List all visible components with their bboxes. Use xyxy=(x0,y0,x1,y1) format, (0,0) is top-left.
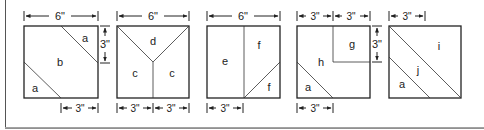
piece-label: f xyxy=(257,39,261,51)
piece-label: a xyxy=(305,81,312,93)
block-4: 3" 3" 3" g h a 3" xyxy=(297,11,382,114)
piece-label: g xyxy=(349,38,355,50)
quilt-diagram: 6" 3" a b a 3" 6" xyxy=(0,0,484,130)
piece-label: j xyxy=(416,64,419,76)
piece-label: e xyxy=(222,55,228,67)
piece-label: c xyxy=(169,67,175,79)
piece-label: b xyxy=(57,56,63,68)
block-5-top-label: 3" xyxy=(402,11,412,22)
block-1: 6" 3" a b a 3" xyxy=(24,10,110,114)
block-3-width-label: 6" xyxy=(238,10,248,22)
block-2-bottom-label-right: 3" xyxy=(166,103,176,114)
block-2-width-label: 6" xyxy=(148,10,158,22)
block-4-side-label: 3" xyxy=(372,38,382,50)
block-2-bottom-label-left: 3" xyxy=(130,103,140,114)
piece-label: h xyxy=(318,56,324,68)
block-2-bottom-dimension xyxy=(117,103,189,113)
piece-label: c xyxy=(132,67,138,79)
block-2: 6" d c c 3" 3" xyxy=(117,10,189,114)
piece-label: a xyxy=(82,32,89,44)
block-3: 6" e f f 3" xyxy=(207,10,280,114)
block-1-width-label: 6" xyxy=(55,10,65,22)
block-4-top-dimension xyxy=(297,11,370,21)
piece-label: f xyxy=(267,81,271,93)
piece-label: d xyxy=(150,35,156,47)
block-1-side-label: 3" xyxy=(100,38,110,50)
block-1-bottom-label: 3" xyxy=(75,103,85,114)
block-4-bottom-label: 3" xyxy=(310,103,320,114)
piece-label: a xyxy=(399,78,406,90)
block-3-bottom-label: 3" xyxy=(220,103,230,114)
piece-label: a xyxy=(32,82,39,94)
block-5: 3" i j a xyxy=(389,11,461,98)
block-4-top-label-right: 3" xyxy=(346,11,356,22)
block-4-top-label-left: 3" xyxy=(310,11,320,22)
piece-label: i xyxy=(438,40,440,52)
